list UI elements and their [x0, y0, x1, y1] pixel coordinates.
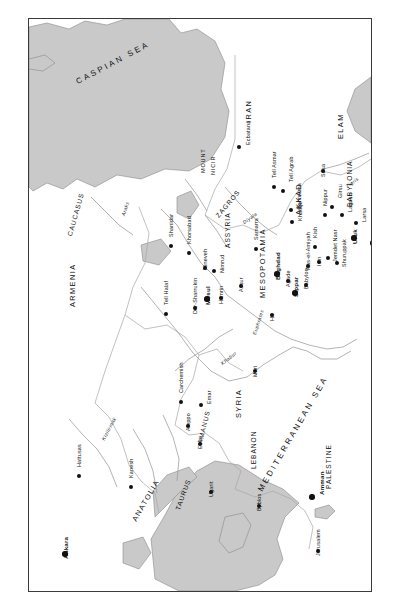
region-label-6: MESOPOTAMIA [259, 228, 266, 298]
city-label[interactable]: Ur [371, 242, 372, 249]
map-geography [29, 19, 371, 591]
city-label[interactable]: Dur-Sharrukin [193, 278, 198, 314]
lake-tuz [123, 537, 151, 569]
mountain-label-0: MOUNT [201, 148, 207, 173]
city-label[interactable]: Kanesh [129, 459, 134, 478]
region-label-8: ARMENIA [69, 264, 76, 307]
region-label-0: IRAN [245, 100, 252, 123]
city-label[interactable]: Larsa [362, 208, 367, 223]
city-label[interactable]: Amman [319, 471, 325, 495]
city-label[interactable]: Isin [317, 257, 322, 266]
city-label[interactable]: Emar [207, 390, 212, 404]
persian-gulf-shape [347, 77, 371, 143]
city-label[interactable]: Hattusas [77, 444, 82, 467]
city-label[interactable]: Jerusalem [316, 529, 321, 556]
tributary-south [163, 415, 179, 481]
caspian-sea-shape [29, 19, 229, 191]
city-label[interactable]: Babylon [304, 268, 309, 289]
city-label[interactable]: Shuruppak [342, 239, 347, 267]
city-label[interactable]: Tell Asmar [272, 151, 277, 178]
euphrates-river [141, 287, 351, 381]
city-label[interactable]: Girsu [338, 184, 343, 198]
city-label[interactable]: Susa [321, 164, 326, 177]
city-label[interactable]: Agade [286, 270, 291, 287]
city-label[interactable]: Ankara [63, 537, 69, 559]
city-label[interactable]: Ecbatana [246, 121, 251, 145]
city-label[interactable]: Tell Agrab [289, 156, 294, 182]
city-label[interactable]: Nineveh [203, 249, 208, 270]
map-root: CASPIAN SEAPERSIANGULFMEDITERRANEAN SEAI… [0, 0, 398, 609]
city-label[interactable]: Hamrin [219, 285, 224, 304]
city-label[interactable]: Uruk [352, 229, 358, 244]
city-label[interactable]: Hit [270, 314, 275, 321]
dead-sea-shape [315, 505, 335, 519]
city-label[interactable]: Khorsabad [187, 216, 192, 244]
city-label[interactable]: Aleppo [186, 413, 191, 431]
city-label[interactable]: Carchemish [179, 362, 184, 393]
city-label[interactable]: Mosul [205, 286, 211, 305]
city-label[interactable]: Nimrud [220, 254, 225, 273]
region-label-10: LEBANON [251, 430, 258, 469]
region-label-9: SYRIA [235, 389, 242, 418]
city-marker[interactable] [309, 494, 314, 499]
city-label[interactable]: Byblos [257, 494, 262, 511]
region-label-5: ASSYRIA [225, 212, 232, 248]
city-label[interactable]: Kish [313, 227, 318, 238]
city-label[interactable]: Mari [253, 366, 258, 377]
mountain-label-1: NICIR [211, 156, 217, 175]
map-frame: CASPIAN SEAPERSIANGULFMEDITERRANEAN SEAI… [28, 18, 372, 592]
lake-urmia [177, 191, 199, 219]
city-label[interactable]: Baghdad [275, 252, 281, 280]
city-label[interactable]: Lagash [348, 193, 353, 212]
region-label-11: PALESTINE [326, 444, 333, 489]
city-label[interactable]: Jemdet Nasr [333, 229, 338, 262]
city-label[interactable]: Shanidar [169, 214, 174, 237]
region-label-1: ELAM [337, 113, 344, 139]
city-label[interactable]: Sippar [293, 277, 299, 297]
city-label[interactable]: Tell Halaf [164, 281, 169, 305]
city-label[interactable]: Ras-el-Amiyah [306, 232, 311, 270]
city-label[interactable]: Khafaje [298, 201, 303, 221]
city-label[interactable]: Nippur [323, 189, 328, 206]
city-label[interactable]: Ebla [198, 437, 203, 449]
city-label[interactable]: Samarra [254, 218, 259, 240]
city-label[interactable]: Ugarit [209, 481, 214, 497]
city-label[interactable]: Assur [239, 277, 244, 292]
